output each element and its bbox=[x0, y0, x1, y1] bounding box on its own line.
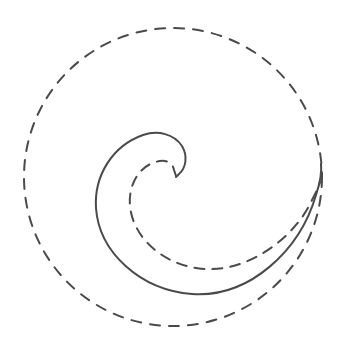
solid-spiral-curve bbox=[96, 133, 321, 294]
spiral-diagram bbox=[0, 0, 338, 345]
dashed-spiral-curve bbox=[130, 161, 320, 269]
diagram-canvas: spiral-in-circle bbox=[0, 0, 338, 345]
outer-dashed-circle bbox=[24, 28, 322, 326]
